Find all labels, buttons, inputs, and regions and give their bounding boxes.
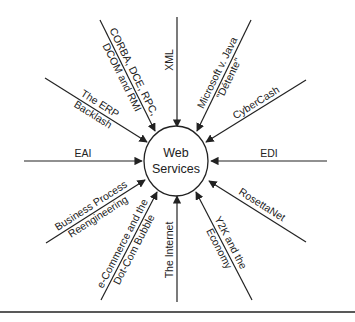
label-cybercash: CyberCash xyxy=(230,83,281,121)
label-y2k: Y2K and the Economy xyxy=(201,214,250,277)
svg-text:EDI: EDI xyxy=(260,147,278,159)
web-services-influence-diagram: Web Services CORBA, DCE, RPC, DCOM and R… xyxy=(0,0,355,322)
svg-text:CyberCash: CyberCash xyxy=(230,83,281,121)
web-services-hub xyxy=(144,126,208,196)
label-eai: EAI xyxy=(75,147,92,159)
hub-label-line2: Services xyxy=(152,162,200,176)
svg-text:XML: XML xyxy=(163,49,175,71)
label-edi: EDI xyxy=(260,147,278,159)
label-xml: XML xyxy=(163,49,175,71)
label-internet: The Internet xyxy=(163,222,175,279)
label-rosettanet: RosettaNet xyxy=(237,185,288,223)
svg-text:EAI: EAI xyxy=(75,147,92,159)
svg-text:The Internet: The Internet xyxy=(163,222,175,279)
svg-text:RosettaNet: RosettaNet xyxy=(237,185,288,223)
hub-label-line1: Web xyxy=(163,146,189,160)
label-erp: The ERP Backlash xyxy=(72,87,122,131)
